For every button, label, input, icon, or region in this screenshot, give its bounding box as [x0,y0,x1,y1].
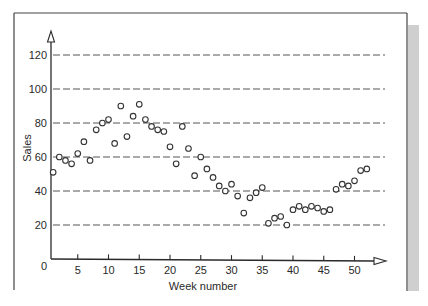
x-axis-line [51,259,374,261]
data-point [112,141,118,147]
data-point [229,181,235,187]
data-point [100,120,106,126]
data-point [358,168,364,174]
side-stripe [408,25,419,291]
data-point [136,102,142,108]
data-point [235,193,241,199]
y-tick-label: 60 [35,151,47,163]
data-point [321,209,327,215]
data-point [180,124,186,130]
data-point [216,183,222,189]
data-point [63,158,69,164]
x-tick-label: 25 [195,264,207,276]
x-tick-label: 40 [287,264,299,276]
data-point [259,185,265,191]
data-point [50,170,56,176]
gridlines [53,55,385,225]
sales-scatter-chart: 510152025303540455020406080100120 Week n… [0,0,428,306]
data-point [241,210,247,216]
data-point [149,124,155,130]
x-axis-arrow-icon [374,258,386,265]
x-tick-label: 50 [348,264,360,276]
y-tick-label: 20 [35,219,47,231]
data-point [290,207,296,213]
y-tick-label: 120 [29,49,47,61]
x-tick-label: 45 [318,264,330,276]
data-point [198,154,204,160]
data-point [173,161,179,167]
data-point [130,113,136,119]
tick-labels: 510152025303540455020406080100120 [29,49,361,276]
x-tick-label: 10 [102,264,114,276]
data-point [296,204,302,210]
data-point [309,204,315,210]
data-point [81,139,87,145]
y-tick-label: 40 [35,185,47,197]
x-tick-label: 5 [75,264,81,276]
data-point [143,117,149,123]
data-point [333,187,339,193]
data-point [364,166,370,172]
data-point [346,183,352,189]
data-point [266,221,272,227]
data-point [124,134,130,140]
data-point [303,207,309,213]
data-point [247,195,253,201]
data-point [272,215,278,221]
data-point [284,222,290,228]
y-axis-arrow-icon [48,31,55,42]
chart-canvas: 510152025303540455020406080100120 Week n… [0,0,428,306]
y-axis-label: Sales [21,134,33,162]
y-tick-label: 80 [35,117,47,129]
data-point [106,117,112,123]
data-point [155,127,161,133]
data-point [204,166,210,172]
data-point [161,129,167,135]
data-point [75,151,81,157]
data-point [118,103,124,109]
data-point [352,178,358,184]
data-point [192,173,198,179]
x-tick-label: 35 [256,264,268,276]
data-point [57,154,63,160]
data-point [327,207,333,213]
data-point [223,188,229,194]
x-tick-label: 20 [164,264,176,276]
data-point [339,181,345,187]
x-tick-label: 15 [133,264,145,276]
data-point [315,205,321,211]
y-tick-label: 100 [29,83,47,95]
data-point [167,144,173,150]
data-point [210,175,216,181]
x-tick-label: 30 [225,264,237,276]
data-point [253,190,259,196]
data-point [93,127,99,133]
axes [48,31,387,265]
origin-label: 0 [41,260,47,272]
data-points [50,102,369,228]
data-point [69,161,75,167]
data-point [87,158,93,164]
data-point [278,214,284,220]
data-point [186,146,192,152]
x-axis-label: Week number [169,280,238,292]
